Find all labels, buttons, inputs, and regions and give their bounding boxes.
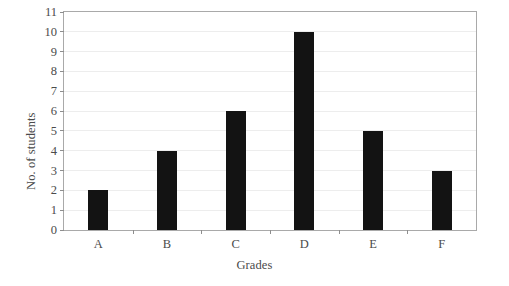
x-axis-tick-label: B (163, 238, 171, 251)
gridline (64, 111, 476, 112)
gridline (64, 190, 476, 191)
y-axis-tick-label: 10 (45, 26, 58, 39)
y-axis-tick (60, 51, 64, 52)
x-axis-tick-label: C (231, 238, 239, 251)
y-axis-tick-label: 1 (51, 204, 57, 217)
y-axis-tick-label: 2 (51, 184, 57, 197)
y-axis-tick (60, 150, 64, 151)
x-axis-tick-label: E (369, 238, 377, 251)
bar (88, 190, 108, 230)
x-axis-tick (339, 230, 340, 234)
bar (157, 151, 177, 230)
y-axis-tick (60, 130, 64, 131)
y-axis-tick-label: 3 (51, 164, 57, 177)
gridline (64, 150, 476, 151)
bar (432, 171, 452, 230)
y-axis-tick (60, 91, 64, 92)
y-axis-tick (60, 71, 64, 72)
y-axis-tick (60, 190, 64, 191)
bar (294, 32, 314, 230)
bar (363, 131, 383, 230)
plot-area: 01234567891011ABCDEF (63, 11, 477, 231)
gridline (64, 210, 476, 211)
y-axis-tick (60, 170, 64, 171)
gridline (64, 91, 476, 92)
y-axis-tick-label: 11 (45, 6, 57, 19)
y-axis-tick (60, 111, 64, 112)
gridline (64, 71, 476, 72)
y-axis-tick-label: 8 (51, 65, 57, 78)
gridline (64, 31, 476, 32)
x-axis-tick-label: A (94, 238, 103, 251)
y-axis-tick-label: 7 (51, 85, 57, 98)
gridline (64, 130, 476, 131)
y-axis-tick-label: 4 (51, 144, 57, 157)
bar-chart-figure: No. of students 01234567891011ABCDEF Gra… (0, 0, 509, 286)
bar (226, 111, 246, 230)
gridline (64, 170, 476, 171)
gridline (64, 51, 476, 52)
y-axis-title-label: No. of students (24, 112, 39, 190)
x-axis-tick (133, 230, 134, 234)
x-axis-tick (407, 230, 408, 234)
x-axis-title: Grades (0, 258, 509, 273)
y-axis-tick (60, 230, 64, 231)
y-axis-tick (60, 210, 64, 211)
x-axis-tick (270, 230, 271, 234)
y-axis-tick-label: 6 (51, 105, 57, 118)
x-axis-tick-label: D (300, 238, 309, 251)
y-axis-tick-label: 9 (51, 45, 57, 58)
y-axis-tick (60, 31, 64, 32)
y-axis-title: No. of students (21, 0, 39, 60)
x-axis-tick-label: F (438, 238, 445, 251)
y-axis-tick-label: 5 (51, 125, 57, 138)
y-axis-tick (60, 12, 64, 13)
y-axis-tick-label: 0 (51, 224, 57, 237)
x-axis-tick (201, 230, 202, 234)
